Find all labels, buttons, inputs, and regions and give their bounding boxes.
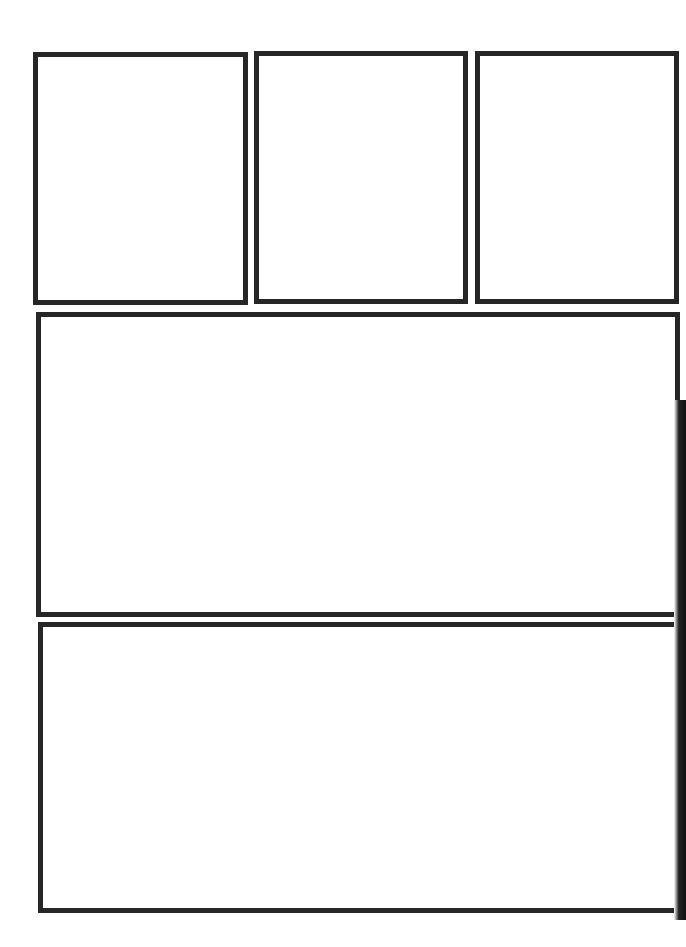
panel-2 <box>254 51 468 304</box>
scan-edge-shadow <box>674 400 686 920</box>
panel-3 <box>475 51 679 304</box>
panel-1 <box>33 52 248 305</box>
panel-4 <box>36 312 680 617</box>
panel-5 <box>38 622 682 913</box>
